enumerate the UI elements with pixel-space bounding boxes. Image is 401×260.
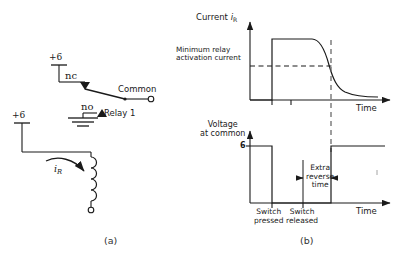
relay-coil xyxy=(91,157,97,201)
activation-threshold-label: Minimum relay activation current xyxy=(176,46,241,63)
no-contact-label: no xyxy=(81,101,93,113)
panel-b-caption: (b) xyxy=(300,236,313,247)
current-chart-drawing xyxy=(250,22,390,105)
common-label: Common xyxy=(118,85,156,95)
ground-symbol xyxy=(68,118,98,126)
coil-current-label: iR xyxy=(54,164,62,177)
voltage-axis-label: Voltage at common xyxy=(200,120,245,138)
voltage-time-axis-label: Time xyxy=(356,207,377,217)
current-axis-subscript: R xyxy=(233,16,237,23)
supply-top-label: +6 xyxy=(49,52,62,62)
coil-current-subscript: R xyxy=(57,168,62,176)
switch-released-label: Switch released xyxy=(286,208,318,225)
current-time-axis-label: Time xyxy=(356,104,377,114)
switch-pressed-label: Switch pressed xyxy=(254,208,283,225)
relay-label: Relay 1 xyxy=(104,109,135,119)
current-waveform xyxy=(250,39,378,100)
coil-bottom-terminal-circle xyxy=(88,207,94,213)
nc-contact-triangle xyxy=(80,82,90,90)
common-terminal-circle xyxy=(148,96,154,102)
panel-a-caption: (a) xyxy=(104,236,117,247)
voltage-high-value-label: 6 xyxy=(240,141,246,150)
supply-bottom-label: +6 xyxy=(12,110,25,120)
extra-reverse-time-label: Extra reverse time xyxy=(306,164,334,190)
nc-contact-label: nc xyxy=(65,70,77,82)
relay-timing-figure: +6 nc no Common Relay 1 +6 iR (a) Curren… xyxy=(0,0,401,260)
current-axis-label: Current iR xyxy=(196,13,237,23)
coil-current-arrow xyxy=(46,158,84,171)
current-axis-text: Current xyxy=(196,12,228,22)
armature-pivot xyxy=(123,97,126,100)
